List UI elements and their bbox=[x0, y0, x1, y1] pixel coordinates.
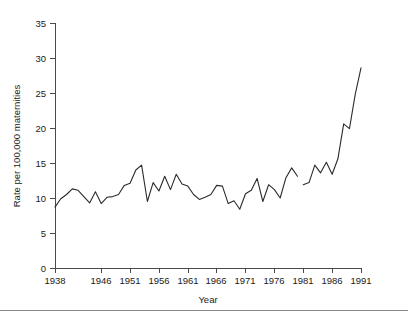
x-tick-label-1946: 1946 bbox=[90, 275, 111, 286]
data-series-line-1981-1991 bbox=[303, 68, 361, 185]
y-axis-title: Rate per 100,000 maternities bbox=[11, 84, 22, 207]
x-tick-label-1951: 1951 bbox=[119, 275, 140, 286]
x-axis-title: Year bbox=[198, 294, 217, 305]
footer-divider bbox=[0, 310, 408, 311]
x-tick-label-1966: 1966 bbox=[205, 275, 226, 286]
y-tick-label-35: 35 bbox=[35, 18, 46, 29]
x-axis-ticks: 1938 1946 1951 1956 1961 1966 1971 1976 … bbox=[44, 268, 371, 286]
x-tick-label-1986: 1986 bbox=[321, 275, 342, 286]
x-tick-label-1976: 1976 bbox=[263, 275, 284, 286]
y-tick-label-25: 25 bbox=[35, 88, 46, 99]
y-axis-ticks: 35 30 25 20 15 10 5 0 bbox=[35, 18, 55, 274]
y-tick-label-10: 10 bbox=[35, 193, 46, 204]
y-tick-label-20: 20 bbox=[35, 123, 46, 134]
x-tick-label-1956: 1956 bbox=[148, 275, 169, 286]
y-tick-label-15: 15 bbox=[35, 158, 46, 169]
x-tick-label-1938: 1938 bbox=[44, 275, 65, 286]
x-tick-label-1961: 1961 bbox=[177, 275, 198, 286]
maternity-rate-line-chart: 35 30 25 20 15 10 5 0 1938 1946 1951 195… bbox=[0, 0, 408, 319]
y-tick-label-0: 0 bbox=[41, 263, 46, 274]
y-tick-label-5: 5 bbox=[41, 228, 46, 239]
x-tick-label-1971: 1971 bbox=[234, 275, 255, 286]
data-series-line-1938-1980 bbox=[55, 165, 297, 209]
y-tick-label-30: 30 bbox=[35, 53, 46, 64]
x-tick-label-1981: 1981 bbox=[292, 275, 313, 286]
x-tick-label-1991: 1991 bbox=[350, 275, 371, 286]
